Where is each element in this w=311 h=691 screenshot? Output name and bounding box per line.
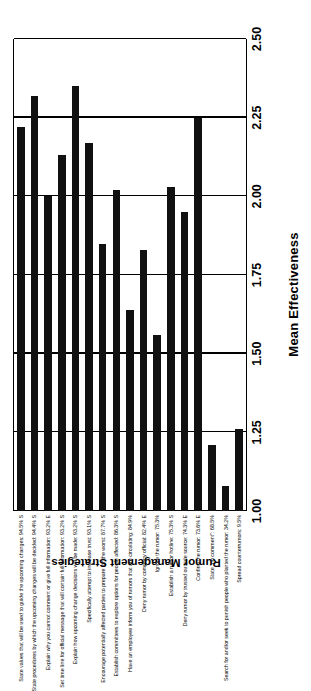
category-label: Search for and/or seek to punish people … (223, 515, 229, 681)
category-label: State values that will be used to guide … (18, 515, 24, 682)
bar (126, 310, 134, 511)
bar (17, 127, 25, 511)
y-axis-title: Rumor Management Strategies (6, 557, 266, 569)
category-axis-labels: State values that will be used to guide … (0, 511, 250, 589)
bar (99, 244, 107, 511)
tick-label: 2.00 (250, 184, 264, 208)
category-label: State "no comment": 68.5% (209, 515, 215, 580)
bar (222, 486, 230, 511)
category-label: Confirm the rumor: 73.6% E (195, 515, 201, 581)
bar (85, 143, 93, 511)
bar (153, 335, 161, 511)
tick-label: 1.25 (250, 420, 264, 444)
category-label: Establish committees to explore options … (113, 515, 119, 677)
bar (44, 196, 52, 511)
category-label: Have an employee inform you of rumors th… (127, 515, 133, 672)
bar (235, 429, 243, 511)
x-axis-title: Mean Effectiveness (286, 0, 301, 589)
bar (31, 96, 39, 511)
value-axis-tick-labels: 1.001.251.501.752.002.252.50 (250, 0, 276, 589)
tick-label: 2.50 (250, 27, 264, 51)
tick-label: 2.25 (250, 106, 264, 130)
tick-label: 1.00 (250, 499, 264, 523)
category-label: Encourage potentially affected parties t… (100, 515, 106, 683)
bar (72, 86, 80, 511)
category-label: State procedures by which the upcoming c… (31, 515, 37, 691)
bar-series (14, 39, 246, 511)
plot-border-bottom (246, 39, 247, 511)
bar (167, 187, 175, 511)
bar (58, 155, 66, 511)
tick-label: 1.50 (250, 342, 264, 366)
bar (140, 250, 148, 511)
category-label: Spread counterrumors: 9.5% (236, 515, 242, 583)
category-label: Explain how upcoming change decisions wi… (72, 515, 78, 664)
category-label: Deny rumor by trusted outside source: 74… (182, 515, 188, 626)
category-label: Set time line for official message that … (59, 515, 65, 688)
bar (181, 212, 189, 511)
bar (194, 118, 202, 511)
category-label: Explain why you cannot comment or give f… (45, 515, 51, 670)
tick-label: 1.75 (250, 263, 264, 287)
category-label: Establish a rumor hotline: 75.3% S (168, 515, 174, 596)
bar (113, 190, 121, 511)
bar (208, 445, 216, 511)
